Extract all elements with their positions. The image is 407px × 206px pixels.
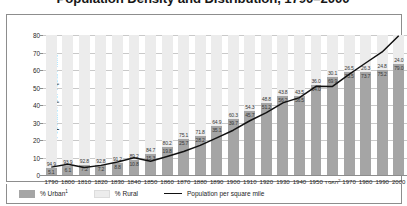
y-tick-mark [40, 70, 43, 71]
table-row[interactable]: 43.556.5 [294, 35, 305, 175]
bar-segment-urban [311, 85, 322, 175]
bar-value-urban: 79.0 [394, 65, 403, 71]
table-row[interactable]: 94.95.1 [46, 35, 57, 175]
bar-value-urban: 25.7 [179, 140, 188, 146]
y-tick-mark [40, 88, 43, 89]
bar-segment-urban [344, 72, 355, 175]
y-tick-mark [40, 140, 43, 141]
table-row[interactable]: 30.169.9 [327, 35, 338, 175]
bar-segment-urban [360, 72, 371, 175]
legend-line-icon [164, 193, 182, 194]
legend-label-urban: % Urban1 [40, 189, 68, 197]
bar-segment-rural [195, 35, 206, 136]
table-row[interactable]: 71.828.2 [195, 35, 206, 175]
bar-segment-urban [261, 103, 272, 175]
legend-item-urban[interactable]: % Urban1 [19, 189, 68, 197]
bar-value-urban: 7.2 [98, 166, 104, 172]
y-tick-mark [40, 35, 43, 36]
bar-segment-urban [211, 126, 222, 175]
bar-value-urban: 64.0 [311, 86, 320, 92]
table-row[interactable]: 24.079.0 [393, 35, 404, 175]
bar-value-urban: 73.7 [361, 73, 370, 79]
bar-value-urban: 51.2 [262, 104, 271, 110]
gridline [43, 175, 407, 176]
table-row[interactable]: 75.125.7 [178, 35, 189, 175]
y-tick-label: 40 [33, 102, 40, 109]
table-row[interactable]: 24.875.2 [377, 35, 388, 175]
bar-value-rural: 94.9 [47, 161, 56, 167]
table-row[interactable]: 91.28.8 [112, 35, 123, 175]
legend-label-density: Population per square mile [187, 190, 264, 197]
y-tick-label: 70 [33, 49, 40, 56]
bar-segment-rural [261, 35, 272, 103]
table-row[interactable]: 48.851.2 [261, 35, 272, 175]
bar-value-rural: 64.9 [212, 119, 221, 125]
table-row[interactable]: 60.339.7 [228, 35, 239, 175]
y-tick-label: 20 [33, 137, 40, 144]
table-row[interactable]: 93.96.1 [62, 35, 73, 175]
bar-value-rural: 84.7 [146, 147, 155, 153]
table-row[interactable]: 43.856.2 [277, 35, 288, 175]
table-row[interactable]: 64.935.1 [211, 35, 222, 175]
chart-legend: % Urban1 % Rural Population per square m… [6, 184, 402, 204]
table-row[interactable]: 36.064.0 [311, 35, 322, 175]
bar-value-urban: 73.5 [345, 73, 354, 79]
table-row[interactable]: 84.715.3 [145, 35, 156, 175]
bar-value-rural: 48.8 [262, 96, 271, 102]
bar-segment-urban [377, 70, 388, 175]
bar-segment-rural [62, 35, 73, 166]
y-tick-label: 60 [33, 67, 40, 74]
bar-value-urban: 28.2 [196, 137, 205, 143]
bar-value-rural: 92.8 [96, 158, 105, 164]
bar-value-rural: 91.2 [113, 156, 122, 162]
bar-value-rural: 71.8 [196, 129, 205, 135]
bar-segment-urban [244, 111, 255, 175]
bar-value-rural: 60.3 [229, 112, 238, 118]
table-row[interactable]: 26.373.7 [360, 35, 371, 175]
table-row[interactable]: 92.87.2 [79, 35, 90, 175]
bar-value-rural: 43.8 [278, 89, 287, 95]
bar-segment-urban [327, 77, 338, 175]
y-tick-label: 30 [33, 119, 40, 126]
bar-segment-rural [211, 35, 222, 126]
table-row[interactable]: 92.87.2 [95, 35, 106, 175]
bar-value-rural: 26.3 [361, 65, 370, 71]
bar-value-rural: 26.5 [345, 65, 354, 71]
plot-area: Population per square mile 0102030405060… [43, 35, 407, 175]
bar-segment-urban [277, 96, 288, 175]
bar-value-urban: 6.1 [65, 167, 71, 173]
y-tick-mark [40, 53, 43, 54]
y-tick-label: 50 [33, 84, 40, 91]
bar-value-urban: 5.1 [48, 169, 54, 175]
legend-swatch-urban-icon [19, 190, 35, 198]
bar-segment-rural [112, 35, 123, 163]
plot-frame: Population per square mile 0102030405060… [6, 14, 402, 182]
bar-segment-urban [294, 96, 305, 175]
bar-segment-rural [178, 35, 189, 139]
chart-title: Population Density and Distribution, 179… [0, 0, 406, 6]
bar-segment-rural [244, 35, 255, 111]
bar-segment-rural [95, 35, 106, 165]
y-tick-mark [40, 123, 43, 124]
bar-value-urban: 7.2 [81, 166, 87, 172]
table-row[interactable]: 80.219.8 [162, 35, 173, 175]
bar-value-urban: 35.1 [212, 127, 221, 133]
bar-value-urban: 56.2 [278, 97, 287, 103]
table-row[interactable]: 26.573.5 [344, 35, 355, 175]
legend-item-density[interactable]: Population per square mile [164, 190, 264, 197]
bar-value-urban: 75.2 [378, 71, 387, 77]
bar-segment-rural [162, 35, 173, 147]
y-tick-mark [40, 175, 43, 176]
bar-value-urban: 39.7 [229, 120, 238, 126]
bar-value-urban: 45.7 [245, 112, 254, 118]
bar-value-urban: 15.3 [146, 155, 155, 161]
bar-value-rural: 24.8 [378, 63, 387, 69]
table-row[interactable]: 54.345.7 [244, 35, 255, 175]
legend-item-rural[interactable]: % Rural [94, 190, 138, 198]
bar-segment-rural [277, 35, 288, 96]
bar-value-urban: 56.5 [295, 97, 304, 103]
bar-segment-urban [393, 64, 404, 175]
y-tick-mark [40, 158, 43, 159]
bar-segment-rural [129, 35, 140, 160]
table-row[interactable]: 89.210.8 [129, 35, 140, 175]
